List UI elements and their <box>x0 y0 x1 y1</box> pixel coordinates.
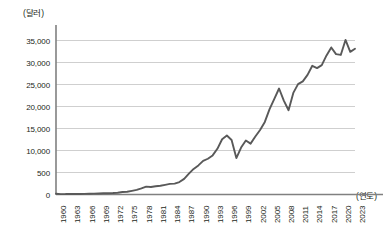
x-tick-label: 2014 <box>315 205 324 222</box>
chart-container: (달러) (연도) 050010,00015,00020,00025,00030… <box>0 0 383 247</box>
x-tick-label: 1969 <box>102 205 111 222</box>
x-tick-label: 1960 <box>59 205 68 222</box>
x-tick-label: 1963 <box>73 205 82 222</box>
x-tick-label: 2011 <box>301 206 310 223</box>
x-tick-label: 2005 <box>273 205 282 222</box>
x-tick-label: 1966 <box>88 205 97 222</box>
x-tick-label: 2002 <box>259 205 268 222</box>
x-tick-label: 1981 <box>159 205 168 222</box>
x-tick-label: 1996 <box>230 205 239 222</box>
x-tick-label: 1984 <box>173 205 182 222</box>
x-tick-label: 2017 <box>330 205 339 222</box>
x-tick-label: 1975 <box>130 205 139 222</box>
x-tick-label: 1972 <box>116 205 125 222</box>
x-tick-label: 1990 <box>202 205 211 222</box>
x-axis-tick-labels: 1960196319661969197219751978198119841987… <box>0 0 383 247</box>
x-tick-label: 2023 <box>358 205 367 222</box>
x-tick-label: 2020 <box>344 205 353 222</box>
x-tick-label: 1987 <box>187 205 196 222</box>
x-tick-label: 2008 <box>287 205 296 222</box>
x-tick-label: 1999 <box>244 205 253 222</box>
x-tick-label: 1978 <box>145 205 154 222</box>
x-tick-label: 1993 <box>216 205 225 222</box>
